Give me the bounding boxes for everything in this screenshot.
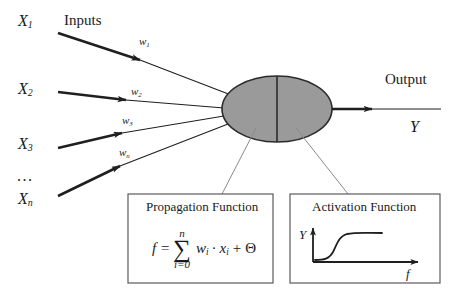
weight-label-w2: w2 [131, 86, 142, 98]
formula-lhs: f = [152, 241, 170, 256]
output-heading: Output [385, 72, 427, 87]
formula-body: wi·xi+Θ [196, 241, 256, 257]
inputs-heading: Inputs [64, 13, 102, 28]
input-label-x1: X1 [18, 13, 33, 30]
propagation-formula: f = n ∑ i=0 wi·xi+Θ [152, 228, 256, 270]
weight-label-wn: wn [119, 147, 130, 159]
neuron-diagram-canvas: Inputs X1 X2 X3 ... Xn w1 w2 w3 wn Outpu… [0, 0, 462, 297]
propagation-box-title: Propagation Function [146, 200, 258, 213]
weight-label-w3: w3 [122, 115, 133, 127]
activation-box-title: Activation Function [312, 200, 416, 213]
sigma-glyph: ∑ [173, 238, 191, 260]
input-label-x3: X3 [18, 136, 33, 153]
input-label-xn: Xn [18, 191, 33, 208]
leader-line-activation [296, 128, 348, 194]
summation-operator: n ∑ i=0 [173, 228, 191, 270]
input-label-ellipsis: ... [17, 168, 34, 184]
summation-lower-limit: i=0 [174, 259, 190, 270]
input-label-x2: X2 [18, 81, 33, 98]
output-symbol: Y [410, 119, 419, 135]
sigmoid-curve [315, 233, 382, 260]
input-connection-3 [58, 116, 224, 148]
activation-y-axis-label: Y [299, 228, 306, 241]
activation-x-axis-label: f [406, 267, 410, 280]
leader-line-propagation [222, 128, 256, 194]
input-connection-n [58, 124, 228, 196]
weight-label-w1: w1 [139, 36, 150, 48]
